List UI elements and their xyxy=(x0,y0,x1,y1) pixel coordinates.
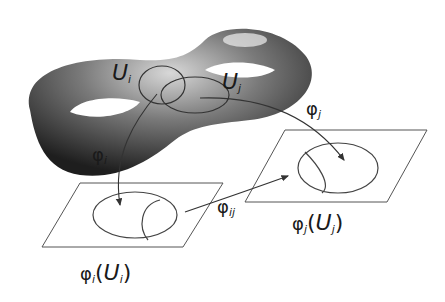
label-phi-j-of-Uj: φj(Uj) xyxy=(292,212,343,235)
arrow-phi-ij xyxy=(185,176,288,212)
label-phi-j: φj xyxy=(306,100,321,120)
label-phi-i: φi xyxy=(92,146,107,166)
diagram-canvas xyxy=(0,0,445,302)
image-Uj xyxy=(298,143,378,193)
label-Ui: Ui xyxy=(112,62,131,85)
label-phi-i-of-Ui: φi(Ui) xyxy=(80,262,131,285)
label-Uj: Uj xyxy=(222,71,241,94)
label-phi-ij: φij xyxy=(217,198,235,218)
image-Ui xyxy=(93,192,177,238)
plane-j xyxy=(245,130,427,202)
